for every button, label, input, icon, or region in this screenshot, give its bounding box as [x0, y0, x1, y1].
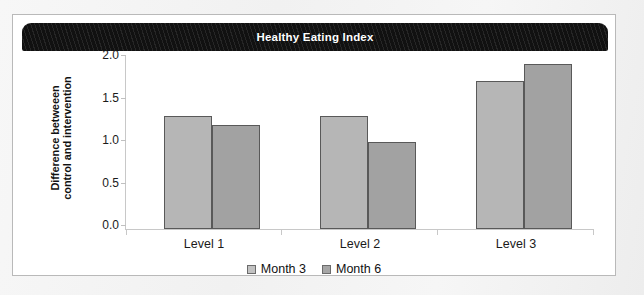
x-axis-tick-mark	[437, 229, 438, 235]
y-tick-label: 2.0	[102, 48, 119, 62]
chart-panel: Healthy Eating Index Difference betweeen…	[12, 14, 616, 276]
y-axis-title-line-1: Difference betweeen	[49, 85, 61, 190]
y-axis-title-line-2: control and intervention	[61, 76, 73, 200]
bar-level3-month3	[476, 81, 524, 229]
legend-swatch-icon	[322, 265, 331, 274]
x-axis-tick-mark	[593, 229, 594, 235]
x-axis-line	[125, 229, 593, 230]
chart-legend: Month 3 Month 6	[13, 262, 615, 276]
y-tick-label: 1.5	[102, 91, 119, 105]
y-tick-label: 0.0	[102, 218, 119, 232]
legend-item-month6[interactable]: Month 6	[322, 262, 381, 276]
x-category-label: Level 3	[496, 237, 536, 251]
bar-group-container	[126, 51, 593, 229]
x-category-label: Level 2	[340, 237, 380, 251]
bar-level1-month3	[164, 116, 212, 229]
legend-item-month3[interactable]: Month 3	[247, 262, 306, 276]
x-axis-category-labels: Level 1 Level 2 Level 3	[126, 237, 593, 257]
chart-title-bar: Healthy Eating Index	[22, 23, 608, 51]
plot-area: Difference betweeen control and interven…	[13, 51, 615, 275]
legend-label: Month 6	[336, 262, 381, 276]
bar-level3-month6	[524, 64, 572, 229]
y-axis-tick-labels: 0.0 0.5 1.0 1.5 2.0	[87, 51, 119, 229]
legend-swatch-icon	[247, 265, 256, 274]
legend-label: Month 3	[261, 262, 306, 276]
x-category-label: Level 1	[184, 237, 224, 251]
x-axis-tick-mark	[126, 229, 127, 235]
x-axis-tick-mark	[281, 229, 282, 235]
y-tick-label: 1.0	[102, 133, 119, 147]
y-axis-title: Difference betweeen control and interven…	[43, 63, 79, 213]
bar-level2-month6	[368, 142, 416, 229]
chart-title: Healthy Eating Index	[256, 31, 373, 43]
bar-level1-month6	[212, 125, 260, 229]
bar-level2-month3	[320, 116, 368, 229]
y-tick-label: 0.5	[102, 176, 119, 190]
